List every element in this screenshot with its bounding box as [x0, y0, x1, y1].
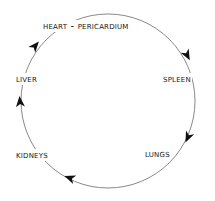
node-kidneys: Kidneys	[15, 149, 49, 161]
arrow-kidneys-to-liver-icon	[15, 96, 25, 108]
node-spleen: Spleen	[162, 73, 192, 85]
node-label: Liver	[16, 73, 37, 84]
arrow-spleen-to-lungs-icon	[181, 131, 194, 145]
node-label: Kidneys	[16, 149, 48, 160]
node-label: Spleen	[163, 73, 191, 84]
cycle-diagram: Heart - Pericardium Spleen Lungs Kidneys…	[0, 0, 215, 201]
node-heart-pericardium: Heart - Pericardium	[42, 20, 130, 32]
node-label: Heart - Pericardium	[43, 20, 129, 31]
arrow-liver-to-heart-icon	[28, 39, 42, 53]
arrow-heart-to-spleen-icon	[181, 48, 194, 62]
node-liver: Liver	[15, 73, 38, 85]
node-lungs: Lungs	[144, 148, 171, 160]
node-label: Lungs	[145, 148, 170, 159]
arrow-lungs-to-kidneys-icon	[63, 172, 76, 184]
